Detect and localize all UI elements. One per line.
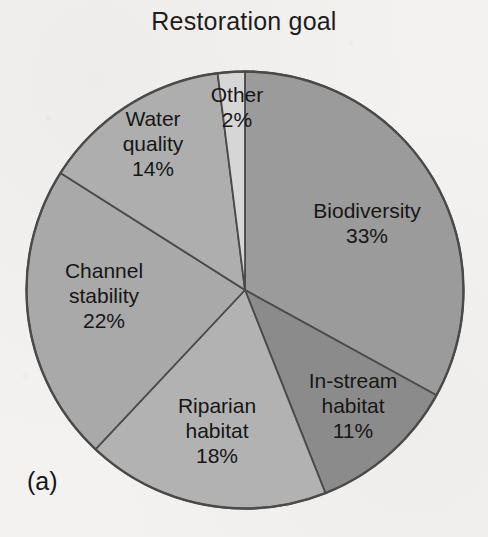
slice-label-biodiversity: Biodiversity 33% [292,198,442,248]
slice-label-riparian-habitat: Riparian habitat 18% [152,393,282,468]
slice-label-water-quality-name-line2: quality [98,131,208,156]
slice-label-other-value: 2% [182,107,292,132]
slice-label-in-stream-habitat: In-stream habitat 11% [288,368,418,443]
panel-caption: (a) [27,467,58,496]
slice-label-in-stream-habitat-value: 11% [288,418,418,443]
page-title: Restoration goal [0,7,488,36]
slice-label-riparian-habitat-name-line1: Riparian [178,394,256,417]
slice-label-water-quality-value: 14% [98,156,208,181]
slice-label-biodiversity-value: 33% [292,223,442,248]
slice-label-channel-stability-name-line1: Channel [65,259,143,282]
slice-label-in-stream-habitat-name-line2: habitat [288,393,418,418]
slice-label-riparian-habitat-name-line2: habitat [152,418,282,443]
slice-label-other: Other 2% [182,82,292,132]
slice-label-other-name: Other [211,83,264,106]
slice-label-channel-stability: Channel stability 22% [38,258,170,333]
slice-label-riparian-habitat-value: 18% [152,443,282,468]
slice-label-in-stream-habitat-name-line1: In-stream [309,369,398,392]
slice-label-channel-stability-name-line2: stability [38,283,170,308]
figure-page: Restoration goal Biodiversity 33% In-str… [0,0,488,537]
slice-label-water-quality-name-line1: Water [125,107,180,130]
slice-label-channel-stability-value: 22% [38,308,170,333]
slice-label-biodiversity-name: Biodiversity [313,199,420,222]
